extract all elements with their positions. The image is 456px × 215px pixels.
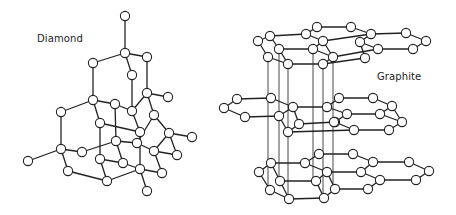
graphite-atom xyxy=(348,149,357,158)
graphite-atom xyxy=(355,37,364,46)
diamond-atom xyxy=(142,52,151,61)
graphite-bond xyxy=(333,49,378,57)
diamond-atom xyxy=(172,150,181,159)
graphite-atom xyxy=(322,167,331,176)
graphite-atom xyxy=(349,125,358,134)
diamond-bond xyxy=(115,104,116,141)
diamond-atom xyxy=(63,166,72,175)
diamond-atom xyxy=(127,70,136,79)
graphite-atom xyxy=(387,101,396,110)
diamond-atom xyxy=(132,138,141,147)
diamond-atom xyxy=(111,136,120,145)
graphite-atom xyxy=(312,22,321,31)
diamond-bond xyxy=(82,141,116,152)
diamond-atom xyxy=(88,58,97,67)
graphite-atom xyxy=(342,109,351,118)
graphite-atom xyxy=(360,53,369,62)
diamond-atom xyxy=(164,128,173,137)
graphite-atom xyxy=(314,149,323,158)
graphite-atom xyxy=(356,167,365,176)
graphite-atom xyxy=(318,36,327,45)
graphite-atom xyxy=(366,29,375,38)
diamond-atom xyxy=(142,186,151,195)
graphite-atom xyxy=(232,94,241,103)
graphite-atom xyxy=(411,175,420,184)
graphite-atom xyxy=(294,119,303,128)
diamond-atom xyxy=(95,154,104,163)
graphite-atom xyxy=(401,28,410,37)
graphite-atom xyxy=(275,176,284,185)
graphite-atom xyxy=(346,22,355,31)
graphite-atom xyxy=(263,52,272,61)
diamond-atom xyxy=(157,168,166,177)
graphite-atom xyxy=(318,59,327,68)
graphite-atom xyxy=(368,93,377,102)
graphite-atom xyxy=(373,44,382,53)
graphite-atom xyxy=(219,103,228,112)
graphite-atom xyxy=(284,194,293,203)
graphite-atom xyxy=(254,167,263,176)
graphite-atom xyxy=(397,117,406,126)
diamond-atom xyxy=(120,11,129,20)
graphite-atom xyxy=(265,185,274,194)
diamond-atom xyxy=(149,146,158,155)
graphite-atom xyxy=(253,36,262,45)
diamond-atom xyxy=(120,48,129,57)
graphite-atom xyxy=(319,193,328,202)
graphite-atom xyxy=(266,158,275,167)
graphite-atom xyxy=(274,44,283,53)
diamond-atom xyxy=(135,127,144,136)
diamond-atom xyxy=(163,92,172,101)
diamond-atom xyxy=(95,118,104,127)
graphite-bond xyxy=(289,198,324,199)
graphite-layer-bottom xyxy=(254,149,433,203)
diamond-bond xyxy=(100,123,140,132)
diamond-atom xyxy=(77,147,86,156)
diamond-atom xyxy=(56,144,65,153)
graphite-atom xyxy=(375,109,384,118)
graphite-label: Graphite xyxy=(377,71,421,82)
graphite-atom xyxy=(311,176,320,185)
graphite-atom xyxy=(308,44,317,53)
graphite-atom xyxy=(334,93,343,102)
graphite-atom xyxy=(404,157,413,166)
graphite-atom xyxy=(283,59,292,68)
graphite-atom xyxy=(375,175,384,184)
graphite-atom xyxy=(363,184,372,193)
graphite-atom xyxy=(329,117,338,126)
graphite-atom xyxy=(283,127,292,136)
diamond-label: Diamond xyxy=(37,33,83,44)
graphite-bond xyxy=(288,130,354,132)
diamond-atom xyxy=(102,176,111,185)
graphite-bond xyxy=(270,34,306,36)
graphite-atom xyxy=(330,184,339,193)
diamond-atom xyxy=(23,156,32,165)
diamond-atom xyxy=(127,106,136,115)
graphite-layer-top xyxy=(253,22,430,68)
diamond-atom xyxy=(135,164,144,173)
graphite-atom xyxy=(408,44,417,53)
graphite-atom xyxy=(300,158,309,167)
diamond-atom xyxy=(187,132,196,141)
diamond-atom xyxy=(110,99,119,108)
graphite-atom xyxy=(301,29,310,38)
graphite-atom xyxy=(384,125,393,134)
graphite-atom xyxy=(266,93,275,102)
graphite-bond xyxy=(371,33,406,34)
graphite-atom xyxy=(274,111,283,120)
graphite-atom xyxy=(322,102,331,111)
graphite-atom xyxy=(421,36,430,45)
diamond-atom xyxy=(56,107,65,116)
diamond-atom xyxy=(149,110,158,119)
diamond-atom xyxy=(88,95,97,104)
graphite-atom xyxy=(288,102,297,111)
diamond-bond xyxy=(107,169,140,181)
diamond-atom xyxy=(142,88,151,97)
graphite-atom xyxy=(240,112,249,121)
graphite-atom xyxy=(424,166,433,175)
diamond-bond xyxy=(28,149,61,161)
diamond-atom xyxy=(118,158,127,167)
graphite-structure xyxy=(219,22,433,203)
graphite-atom xyxy=(328,52,337,61)
graphite-atom xyxy=(368,157,377,166)
